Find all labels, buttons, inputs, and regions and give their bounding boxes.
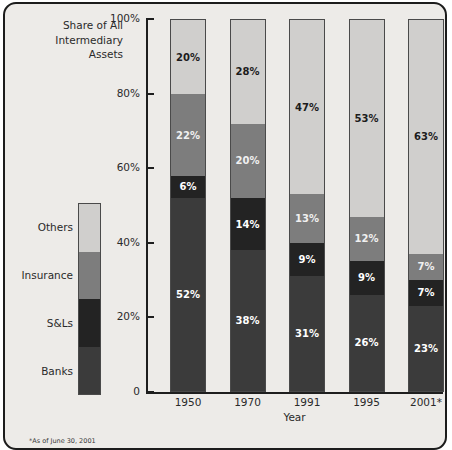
legend-swatch-segment	[79, 204, 100, 252]
bar-segment-value: 7%	[418, 261, 435, 272]
bar-segment-value: 9%	[299, 254, 316, 265]
legend-swatch-segment	[79, 252, 100, 300]
bar-segment-value: 26%	[355, 337, 379, 348]
bar-segment-value: 47%	[295, 102, 319, 113]
bar-segment: 38%	[231, 250, 265, 391]
bar-segment-value: 53%	[355, 113, 379, 124]
x-axis-title: Year	[146, 411, 443, 423]
x-axis-line	[146, 392, 443, 394]
bar-segment-value: 7%	[418, 287, 435, 298]
legend-label: Banks	[9, 365, 73, 377]
bar-segment-value: 14%	[236, 219, 260, 230]
y-axis-tick-label: 80%	[98, 88, 140, 99]
y-axis-line	[146, 19, 148, 393]
bar-segment: 7%	[409, 254, 443, 280]
bar-segment-value: 52%	[176, 289, 200, 300]
y-axis-title: Share of All Intermediary Assets	[11, 18, 123, 62]
bar-segment: 53%	[350, 20, 384, 217]
y-axis-title-line-2: Intermediary	[11, 33, 123, 48]
chart-footnote: *As of June 30, 2001	[29, 437, 96, 445]
bar-segment: 9%	[290, 243, 324, 276]
y-axis-tick	[146, 316, 154, 318]
bar-segment-value: 23%	[414, 343, 438, 354]
y-axis-tick-label: 20%	[98, 311, 140, 322]
bar-segment-value: 31%	[295, 328, 319, 339]
bar-segment: 52%	[171, 198, 205, 391]
bar-segment: 20%	[171, 20, 205, 94]
bar-segment: 26%	[350, 295, 384, 391]
y-axis-tick-label: 100%	[98, 13, 140, 24]
x-axis-tick-label: 2001*	[398, 396, 447, 408]
bar-segment: 13%	[290, 194, 324, 242]
stacked-bar: 47%13%9%31%	[289, 19, 325, 392]
stacked-bar: 63%7%7%23%	[408, 19, 444, 392]
legend-swatch-segment	[79, 299, 100, 347]
legend-swatch-segment	[79, 347, 100, 395]
bar-segment-value: 22%	[176, 130, 200, 141]
bar-segment: 7%	[409, 280, 443, 306]
bar-segment: 28%	[231, 20, 265, 124]
legend-swatch	[78, 203, 101, 395]
bar-segment-value: 9%	[358, 272, 375, 283]
bar-segment: 22%	[171, 94, 205, 176]
bar-segment: 6%	[171, 176, 205, 198]
bar-segment-value: 63%	[414, 131, 438, 142]
y-axis-title-line-3: Assets	[11, 47, 123, 62]
x-axis-tick-label: 1950	[160, 396, 216, 408]
bar-segment-value: 38%	[236, 315, 260, 326]
chart-panel: Share of All Intermediary Assets 100%80%…	[3, 2, 447, 450]
y-axis-tick-label: 0	[98, 386, 140, 397]
bar-segment-value: 6%	[180, 181, 197, 192]
bar-segment: 9%	[350, 261, 384, 294]
y-axis-tick-label: 60%	[98, 162, 140, 173]
bar-segment-value: 12%	[355, 233, 379, 244]
bar-segment-value: 28%	[236, 66, 260, 77]
bar-segment-value: 20%	[176, 52, 200, 63]
bar-segment-value: 20%	[236, 155, 260, 166]
bar-segment: 20%	[231, 124, 265, 198]
stacked-bar: 20%22%6%52%	[170, 19, 206, 392]
y-axis-tick	[146, 18, 154, 20]
x-axis-tick-label: 1995	[339, 396, 395, 408]
bar-segment: 23%	[409, 306, 443, 391]
stacked-bar: 53%12%9%26%	[349, 19, 385, 392]
bar-segment: 14%	[231, 198, 265, 250]
y-axis-tick-label: 40%	[98, 237, 140, 248]
bar-segment: 31%	[290, 276, 324, 391]
legend-label: Others	[9, 221, 73, 233]
bar-segment: 47%	[290, 20, 324, 194]
stacked-bar: 28%20%14%38%	[230, 19, 266, 392]
y-axis-tick	[146, 242, 154, 244]
x-axis-tick-label: 1970	[220, 396, 276, 408]
bar-segment: 12%	[350, 217, 384, 262]
legend-label: S&Ls	[9, 317, 73, 329]
legend-label: Insurance	[9, 269, 73, 281]
bar-segment: 63%	[409, 20, 443, 254]
bar-segment-value: 13%	[295, 213, 319, 224]
y-axis-tick	[146, 167, 154, 169]
x-axis-tick-label: 1991	[279, 396, 335, 408]
y-axis-tick	[146, 93, 154, 95]
